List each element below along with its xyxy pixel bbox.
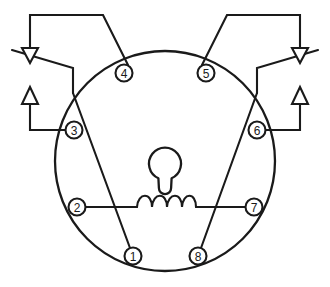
terminal-pin-1-label: 1 [130, 250, 137, 264]
terminal-pin-3-label: 3 [71, 124, 78, 138]
terminal-pin-2[interactable]: 2 [69, 199, 86, 216]
up-arrow-right-icon [292, 87, 308, 104]
relay-socket-diagram: 1 2 3 4 5 6 [0, 0, 330, 287]
lead-pin4-to-down-arrow-left [30, 15, 128, 65]
terminal-pin-4-label: 4 [121, 67, 128, 81]
external-wire-right [257, 50, 318, 93]
terminal-pin-6[interactable]: 6 [249, 122, 266, 139]
down-arrow-right-icon [292, 48, 308, 63]
terminal-pin-2-label: 2 [74, 201, 81, 215]
terminal-pin-3[interactable]: 3 [66, 122, 83, 139]
external-wire-left [12, 50, 73, 93]
terminal-pin-7-label: 7 [251, 201, 258, 215]
terminal-pin-1[interactable]: 1 [125, 248, 142, 265]
up-arrow-left-icon [22, 87, 38, 104]
diagram-canvas: 1 2 3 4 5 6 [0, 0, 330, 287]
terminal-pin-5[interactable]: 5 [198, 65, 215, 82]
terminal-pin-7[interactable]: 7 [246, 199, 263, 216]
terminal-pin-8-label: 8 [195, 250, 202, 264]
terminal-pin-5-label: 5 [203, 67, 210, 81]
terminal-pin-4[interactable]: 4 [116, 65, 133, 82]
down-arrow-left-icon [22, 48, 38, 63]
terminal-pin-8[interactable]: 8 [190, 248, 207, 265]
lead-pin5-to-down-arrow-right [202, 15, 300, 65]
terminal-pin-6-label: 6 [254, 124, 261, 138]
